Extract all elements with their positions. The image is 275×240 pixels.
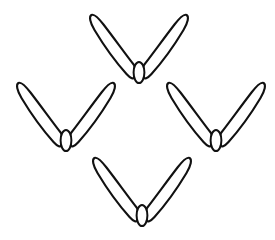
figure-canvas (0, 0, 275, 240)
line-art-figure (0, 0, 275, 240)
